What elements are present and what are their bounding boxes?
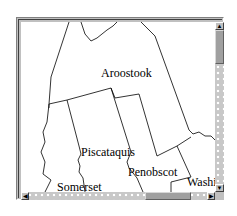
county-label-piscataquis: Piscataquis: [81, 146, 135, 158]
arrow-down-icon: ▼: [217, 185, 223, 191]
horizontal-scrollbar[interactable]: ◀ ▶: [21, 192, 215, 200]
map-canvas[interactable]: Aroostook Piscataquis Penobscot Somerset…: [21, 22, 215, 192]
scroll-left-button[interactable]: ◀: [21, 192, 29, 200]
vertical-scrollbar[interactable]: ▲ ▼: [215, 22, 224, 192]
scrollbar-corner: [215, 192, 224, 200]
map-window-inner: Aroostook Piscataquis Penobscot Somerset…: [18, 19, 222, 198]
county-boundaries: [21, 22, 215, 192]
county-label-aroostook: Aroostook: [101, 67, 152, 79]
county-label-penobscot: Penobscot: [128, 166, 177, 178]
scroll-down-button[interactable]: ▼: [215, 184, 224, 192]
map-window: Aroostook Piscataquis Penobscot Somerset…: [16, 17, 224, 200]
scroll-up-button[interactable]: ▲: [215, 22, 224, 30]
county-label-somerset: Somerset: [57, 181, 102, 192]
horizontal-scroll-thumb[interactable]: [145, 192, 191, 200]
vertical-scroll-thumb[interactable]: [215, 30, 224, 64]
arrow-up-icon: ▲: [217, 23, 223, 29]
arrow-left-icon: ◀: [23, 193, 28, 199]
arrow-right-icon: ▶: [209, 193, 214, 199]
county-label-washington: Washin: [187, 176, 215, 188]
scroll-right-button[interactable]: ▶: [207, 192, 215, 200]
